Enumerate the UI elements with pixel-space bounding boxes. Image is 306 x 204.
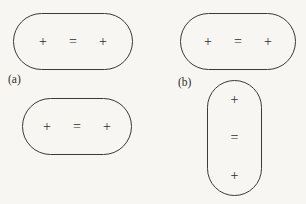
symbol-plus: + <box>253 35 283 49</box>
capsule-a-bottom: + = + <box>22 98 132 155</box>
symbol-plus: + <box>208 169 261 183</box>
symbol-equals: = <box>62 120 92 134</box>
symbol-plus: + <box>92 120 122 134</box>
symbol-plus: + <box>88 35 118 49</box>
symbol-equals: = <box>223 35 253 49</box>
symbol-plus: + <box>193 35 223 49</box>
symbol-plus: + <box>208 93 261 107</box>
symbol-plus: + <box>32 120 62 134</box>
capsule-a-top: + = + <box>13 13 133 70</box>
symbol-equals: = <box>58 35 88 49</box>
symbol-equals: = <box>208 131 261 145</box>
panel-label-a: (a) <box>8 74 21 86</box>
symbol-plus: + <box>28 35 58 49</box>
capsule-b-vertical: + = + <box>207 80 262 196</box>
panel-label-b: (b) <box>178 77 191 89</box>
figure-container: + = + (a) + = + + = + (b) + = + <box>0 0 306 204</box>
capsule-b-top: + = + <box>180 13 296 70</box>
